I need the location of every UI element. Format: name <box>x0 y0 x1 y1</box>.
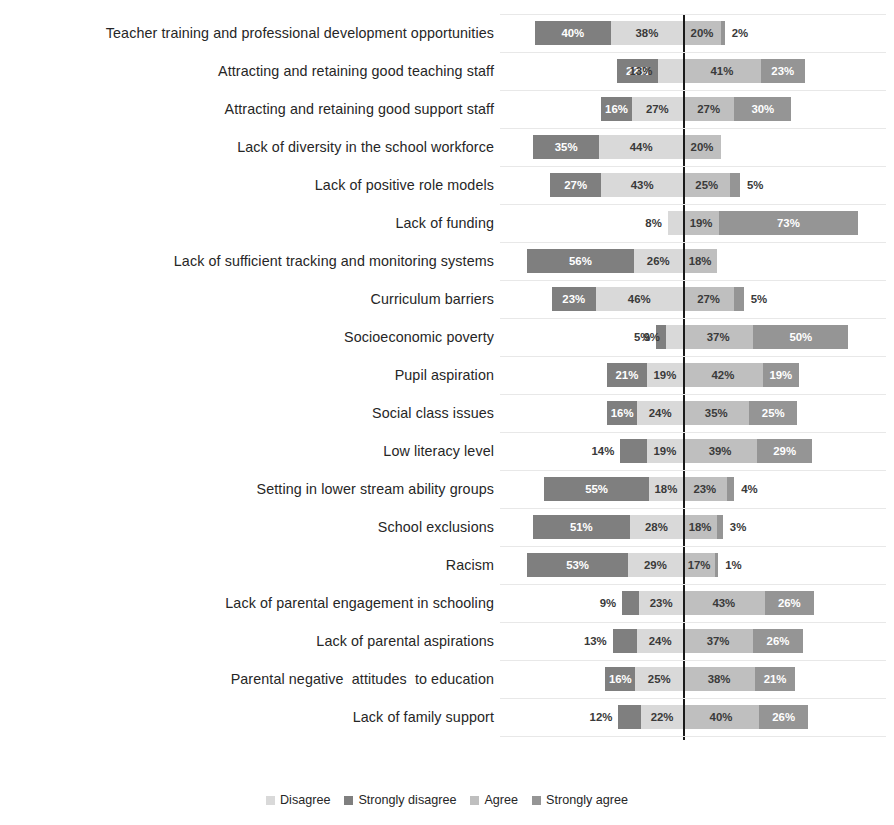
segment-value-label: 35% <box>555 141 578 153</box>
gridline <box>500 432 886 433</box>
segment-value-label: 73% <box>777 217 800 229</box>
chart-legend: DisagreeStrongly disagreeAgreeStrongly a… <box>0 793 894 807</box>
stacked-bar: 16%27%27%30% <box>601 97 791 121</box>
segment-strongly-agree: 3% <box>717 515 723 539</box>
segment-strongly-agree: 5% <box>734 287 744 311</box>
segment-strongly-agree: 19% <box>763 363 799 387</box>
chart-row: Social class issues16%24%35%25% <box>0 394 894 432</box>
row-category-label: Lack of parental engagement in schooling <box>0 584 494 622</box>
legend-item[interactable]: Disagree <box>266 793 330 807</box>
segment-value-label: 19% <box>654 369 677 381</box>
segment-agree: 18% <box>683 515 717 539</box>
segment-value-label: 1% <box>725 559 741 571</box>
gridline <box>500 736 886 737</box>
row-bar-area: 14%19%39%29% <box>500 432 894 470</box>
segment-value-label: 42% <box>711 369 734 381</box>
chart-row: Low literacy level14%19%39%29% <box>0 432 894 470</box>
segment-value-label: 17% <box>688 559 711 571</box>
segment-value-label: 13% <box>584 635 607 647</box>
segment-value-label: 26% <box>767 635 790 647</box>
segment-value-label: 21% <box>616 369 639 381</box>
segment-disagree: 25% <box>635 667 683 691</box>
segment-value-label: 2% <box>732 27 748 39</box>
segment-disagree: 8% <box>668 211 683 235</box>
segment-agree: 20% <box>683 21 721 45</box>
segment-value-label: 35% <box>705 407 728 419</box>
segment-value-label: 19% <box>654 445 677 457</box>
gridline <box>500 698 886 699</box>
segment-value-label: 38% <box>708 673 731 685</box>
row-category-label: Teacher training and professional develo… <box>0 14 494 52</box>
row-category-label: Lack of diversity in the school workforc… <box>0 128 494 166</box>
segment-value-label: 27% <box>697 293 720 305</box>
segment-value-label: 20% <box>691 141 714 153</box>
stacked-bar: 51%28%18%3% <box>533 515 723 539</box>
row-category-label: Attracting and retaining good teaching s… <box>0 52 494 90</box>
segment-value-label: 50% <box>789 331 812 343</box>
segment-agree: 37% <box>683 629 753 653</box>
segment-value-label: 8% <box>645 217 661 229</box>
segment-value-label: 12% <box>590 711 613 723</box>
chart-row: Parental negative attitudes to education… <box>0 660 894 698</box>
segment-value-label: 18% <box>654 483 677 495</box>
plot-area: Teacher training and professional develo… <box>0 0 894 772</box>
segment-strongly-agree: 29% <box>757 439 812 463</box>
segment-agree: 27% <box>683 287 734 311</box>
row-category-label: Setting in lower stream ability groups <box>0 470 494 508</box>
segment-value-label: 46% <box>628 293 651 305</box>
segment-agree: 19% <box>683 211 719 235</box>
row-category-label: Pupil aspiration <box>0 356 494 394</box>
segment-strongly-disagree: 13% <box>613 629 638 653</box>
row-bar-area: 21%19%42%19% <box>500 356 894 394</box>
segment-value-label: 43% <box>631 179 654 191</box>
segment-value-label: 26% <box>778 597 801 609</box>
segment-value-label: 18% <box>689 521 712 533</box>
segment-value-label: 25% <box>648 673 671 685</box>
segment-value-label: 25% <box>695 179 718 191</box>
segment-agree: 40% <box>683 705 759 729</box>
chart-row: Racism53%29%17%1% <box>0 546 894 584</box>
gridline <box>500 52 886 53</box>
chart-row: Lack of family support12%22%40%26% <box>0 698 894 736</box>
segment-strongly-disagree: 14% <box>620 439 647 463</box>
segment-strongly-agree: 30% <box>734 97 791 121</box>
row-bar-area: 55%18%23%4% <box>500 470 894 508</box>
segment-value-label: 53% <box>566 559 589 571</box>
chart-row: Lack of positive role models27%43%25%5% <box>0 166 894 204</box>
segment-value-label: 56% <box>569 255 592 267</box>
segment-value-label: 28% <box>645 521 668 533</box>
legend-item[interactable]: Strongly disagree <box>344 793 456 807</box>
diverging-stacked-bar-chart: Teacher training and professional develo… <box>0 0 894 825</box>
segment-agree: 38% <box>683 667 755 691</box>
segment-disagree: 24% <box>637 401 683 425</box>
row-category-label: Social class issues <box>0 394 494 432</box>
segment-value-label: 9% <box>600 597 616 609</box>
legend-swatch-icon <box>344 796 353 805</box>
segment-value-label: 41% <box>711 65 734 77</box>
segment-value-label: 55% <box>585 483 608 495</box>
chart-row: Lack of parental engagement in schooling… <box>0 584 894 622</box>
segment-value-label: 29% <box>644 559 667 571</box>
segment-value-label: 16% <box>611 407 634 419</box>
segment-disagree: 38% <box>611 21 683 45</box>
segment-value-label: 21% <box>764 673 787 685</box>
segment-strongly-agree: 25% <box>749 401 797 425</box>
segment-agree: 42% <box>683 363 763 387</box>
segment-value-label: 14% <box>591 445 614 457</box>
segment-strongly-disagree: 27% <box>550 173 601 197</box>
gridline <box>500 660 886 661</box>
gridline <box>500 128 886 129</box>
segment-value-label: 37% <box>707 331 730 343</box>
legend-item[interactable]: Strongly agree <box>532 793 628 807</box>
row-category-label: Socioeconomic poverty <box>0 318 494 356</box>
legend-item[interactable]: Agree <box>470 793 518 807</box>
segment-value-label: 16% <box>605 103 628 115</box>
segment-value-label: 26% <box>647 255 670 267</box>
segment-strongly-disagree: 56% <box>527 249 633 273</box>
chart-row: Socioeconomic poverty5%9%37%50% <box>0 318 894 356</box>
segment-disagree: 43% <box>601 173 683 197</box>
segment-disagree: 27% <box>632 97 683 121</box>
segment-value-label: 44% <box>630 141 653 153</box>
segment-strongly-disagree: 16% <box>601 97 631 121</box>
gridline <box>500 394 886 395</box>
